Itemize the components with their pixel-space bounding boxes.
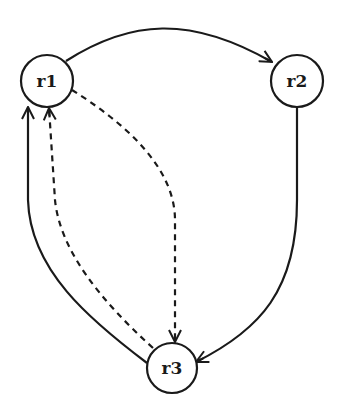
node-label: r2: [287, 71, 308, 91]
node-label: r3: [162, 358, 183, 378]
edge-r2-r3: [196, 107, 297, 362]
node-label: r1: [37, 71, 58, 91]
graph-canvas: r1 r2 r3: [0, 0, 341, 412]
node-r1: r1: [21, 55, 73, 107]
edge-r3-r1-dashed: [49, 108, 153, 348]
node-r3: r3: [147, 343, 197, 393]
edge-r1-r3-dashed: [72, 90, 175, 342]
node-r2: r2: [271, 55, 323, 107]
edge-r1-r2: [66, 28, 272, 62]
